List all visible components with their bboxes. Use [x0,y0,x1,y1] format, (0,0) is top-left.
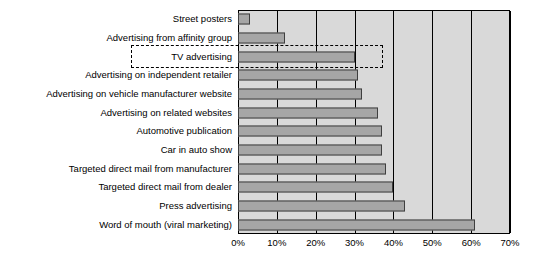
bar-row [238,10,510,29]
x-tick-label: 0% [231,237,245,248]
category-label: Street posters [173,14,232,24]
bar[interactable] [238,51,355,62]
category-label-row: Targeted direct mail from dealer [0,178,236,197]
bar[interactable] [238,219,475,230]
bar[interactable] [238,163,386,174]
bar[interactable] [238,200,405,211]
x-tick-label: 70% [500,237,519,248]
category-label-row: Targeted direct mail from manufacturer [0,159,236,178]
bar-row [238,85,510,104]
category-label-row: Advertising on vehicle manufacturer webs… [0,85,236,104]
category-label: TV advertising [171,52,232,62]
category-label: Advertising on related websites [101,108,233,118]
bar-row [238,215,510,234]
category-label: Advertising on independent retailer [85,70,232,80]
bar-chart: Street postersAdvertising from affinity … [0,0,534,267]
bar[interactable] [238,126,382,137]
bar[interactable] [238,14,250,25]
category-label: Car in auto show [161,145,232,155]
bars-layer [238,10,510,234]
category-label-row: Advertising from affinity group [0,29,236,48]
category-label-row: Advertising on independent retailer [0,66,236,85]
x-tick-label: 40% [384,237,403,248]
category-label: Targeted direct mail from manufacturer [69,164,232,174]
category-label-row: Word of mouth (viral marketing) [0,215,236,234]
bar[interactable] [238,107,378,118]
category-label: Advertising from affinity group [107,33,233,43]
value-axis: 0%10%20%30%40%50%60%70% [238,234,510,254]
category-label: Advertising on vehicle manufacturer webs… [46,89,232,99]
category-label-row: Car in auto show [0,141,236,160]
bar-row [238,159,510,178]
bar-row [238,141,510,160]
bar-row [238,122,510,141]
category-label-row: Press advertising [0,197,236,216]
bar-row [238,103,510,122]
bar[interactable] [238,88,362,99]
gridline-70% [510,11,511,233]
category-label: Word of mouth (viral marketing) [99,220,232,230]
category-axis-labels: Street postersAdvertising from affinity … [0,10,236,234]
category-label: Automotive publication [136,126,232,136]
category-label-row: Advertising on related websites [0,103,236,122]
x-tick-label: 50% [423,237,442,248]
bar-row [238,178,510,197]
bar[interactable] [238,144,382,155]
x-tick-label: 30% [345,237,364,248]
category-label: Targeted direct mail from dealer [98,182,232,192]
bar-row [238,66,510,85]
x-tick-label: 10% [267,237,286,248]
bar-row [238,197,510,216]
bar[interactable] [238,182,393,193]
x-tick-label: 60% [462,237,481,248]
x-tick-label: 20% [306,237,325,248]
category-label-row: Automotive publication [0,122,236,141]
category-label-row: Street posters [0,10,236,29]
bar[interactable] [238,32,285,43]
category-label: Press advertising [159,201,232,211]
bar-row [238,47,510,66]
category-label-row: TV advertising [0,47,236,66]
bar[interactable] [238,70,358,81]
bar-row [238,29,510,48]
